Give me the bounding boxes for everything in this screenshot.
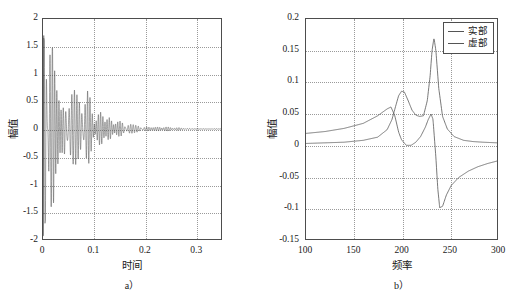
x-tick-label: 250: [443, 246, 457, 256]
x-tick-label: 0.1: [87, 246, 99, 256]
x-axis-title: 时间: [122, 261, 142, 272]
legend-swatch-real: [448, 31, 464, 32]
y-tick-label: -2: [6, 235, 38, 245]
legend-entry-real: 实部: [448, 26, 488, 38]
y-tick-label: -0.5: [6, 152, 38, 162]
y-tick-label: -0.05: [260, 172, 299, 182]
y-tick-label: 1.5: [6, 41, 38, 51]
x-tick-label: 150: [346, 246, 360, 256]
y-tick-label: 0: [260, 140, 299, 150]
x-tick-label: 300: [491, 246, 505, 256]
time-response-curve: [43, 19, 221, 239]
legend-label-real: 实部: [468, 26, 488, 38]
legend-swatch-imag: [448, 43, 464, 44]
panel-caption-b: b）: [394, 281, 409, 291]
y-tick-label: 0.15: [260, 45, 299, 55]
x-tick-label: 0.3: [190, 246, 202, 256]
y-tick-label: -0.15: [260, 235, 299, 245]
y-tick-label: 1: [6, 69, 38, 79]
real-part-curve: [306, 107, 497, 208]
y-tick-label: -1: [6, 180, 38, 190]
imag-part-curve: [306, 39, 497, 144]
x-tick-label: 100: [298, 246, 312, 256]
y-tick-label: 0.5: [6, 97, 38, 107]
legend: 实部 虚部: [443, 22, 494, 54]
plot-area-b: 实部 虚部: [305, 18, 498, 240]
x-tick-label: 200: [394, 246, 408, 256]
x-tick-label: 0.2: [139, 246, 151, 256]
x-tick-label: 0: [40, 246, 45, 256]
figure-root: 2 1.5 1 0.5 0 -0.5 -1 -1.5 -2 0 0.1 0.2 …: [0, 0, 513, 297]
x-axis-title: 频率: [392, 261, 412, 272]
legend-label-imag: 虚部: [468, 38, 488, 50]
legend-entry-imag: 虚部: [448, 38, 488, 50]
y-axis-title: 幅值: [268, 109, 279, 149]
y-tick-label: 2: [6, 13, 38, 23]
y-tick-label: -1.5: [6, 208, 38, 218]
y-axis-title: 幅值: [9, 109, 20, 149]
y-tick-label: -0.1: [260, 204, 299, 214]
chart-panel-a: 2 1.5 1 0.5 0 -0.5 -1 -1.5 -2 0 0.1 0.2 …: [0, 0, 256, 297]
y-tick-label: 0.1: [260, 77, 299, 87]
y-tick-label: 0.05: [260, 108, 299, 118]
y-tick-label: 0.2: [260, 13, 299, 23]
panel-caption-a: a）: [125, 281, 139, 291]
chart-panel-b: 0.2 0.15 0.1 0.05 0 -0.05 -0.1 -0.15 100…: [256, 0, 513, 297]
plot-area-a: [42, 18, 222, 240]
